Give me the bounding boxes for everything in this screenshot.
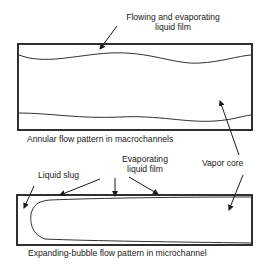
- lower-liquid-film-interface: [19, 113, 251, 121]
- micro-film-label-line2: liquid film: [112, 164, 178, 174]
- elongated-bubble-interface: [31, 197, 251, 243]
- macrochannel: [18, 44, 252, 130]
- liquid-slug-label: Liquid slug: [38, 170, 79, 180]
- microchannel: [17, 195, 252, 245]
- arrow-micro-vapor-core-icon: [229, 175, 243, 210]
- arrow-micro-slug-icon: [24, 186, 34, 208]
- arrow-micro-film-right-icon: [129, 177, 158, 194]
- macro-film-label-line1: Flowing and evaporating: [113, 12, 233, 22]
- upper-liquid-film-interface: [19, 53, 251, 63]
- flow-pattern-diagram: [0, 0, 265, 266]
- macro-film-label: Flowing and evaporating liquid film: [113, 12, 233, 32]
- arrow-macro-vapor-core-icon: [220, 101, 239, 155]
- micro-film-label: Evaporating liquid film: [112, 154, 178, 174]
- microchannel-wall: [17, 195, 252, 245]
- vapor-core-label: Vapor core: [202, 158, 243, 168]
- macro-caption: Annular flow pattern in macrochannels: [27, 134, 173, 144]
- arrow-micro-slug-film-icon: [60, 179, 100, 195]
- macro-film-label-line2: liquid film: [113, 22, 233, 32]
- micro-film-label-line1: Evaporating: [112, 154, 178, 164]
- micro-caption: Expanding-bubble flow pattern in microch…: [28, 248, 207, 258]
